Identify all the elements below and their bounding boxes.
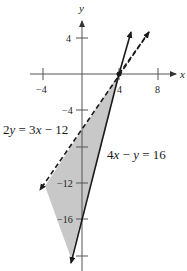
intersection-point [117, 72, 122, 77]
x-axis-label: x [179, 68, 185, 80]
y-tick-label-neg12: −12 [57, 178, 73, 189]
x-tick-label-8: 8 [155, 84, 160, 95]
x-tick-label-neg4: −4 [36, 84, 47, 95]
inequality-graph: x y −4 4 8 4 −4 −12 −16 2y = 3x − 12 4x … [0, 0, 187, 271]
y-tick-label-neg4: −4 [62, 105, 73, 116]
y-tick-label-4: 4 [66, 33, 71, 44]
equation-label-dashed: 2y = 3x − 12 [3, 122, 68, 137]
y-axis-label: y [78, 2, 84, 14]
equation-label-solid: 4x − y = 16 [107, 147, 166, 162]
y-tick-label-neg16: −16 [57, 214, 73, 225]
x-tick-label-4: 4 [117, 84, 122, 95]
